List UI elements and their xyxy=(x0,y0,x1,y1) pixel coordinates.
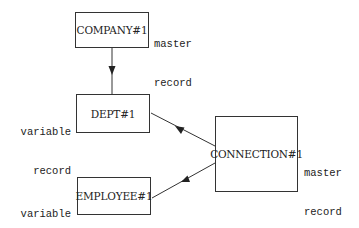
edge-company-to-dept xyxy=(109,48,116,94)
diagram-canvas: COMPANY#1 master record DEPT#1 variable … xyxy=(0,0,359,228)
node-employee-role: variable record xyxy=(21,182,71,228)
node-connection-label: CONNECTION#1 xyxy=(210,148,303,160)
node-company: COMPANY#1 xyxy=(75,12,149,48)
edge-connection-to-employee xyxy=(152,163,215,198)
edge-connection-to-dept xyxy=(151,113,215,146)
node-company-label: COMPANY#1 xyxy=(77,24,148,36)
arrowhead-icon xyxy=(175,126,185,134)
node-employee: EMPLOYEE#1 xyxy=(77,177,151,215)
node-dept-label: DEPT#1 xyxy=(91,108,135,120)
node-connection: CONNECTION#1 xyxy=(215,116,298,192)
node-dept: DEPT#1 xyxy=(76,94,150,133)
arrowhead-icon xyxy=(181,176,190,183)
node-connection-role: master record xyxy=(304,141,342,228)
arrowhead-icon xyxy=(109,66,116,75)
node-employee-label: EMPLOYEE#1 xyxy=(76,190,153,202)
node-company-role: master record xyxy=(154,12,192,116)
